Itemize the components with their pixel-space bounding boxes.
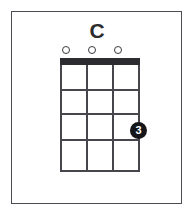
string-1 bbox=[60, 65, 62, 172]
nut-bar bbox=[60, 58, 140, 65]
string-2 bbox=[86, 65, 88, 172]
fret-line-4 bbox=[60, 170, 140, 172]
open-string-marker-2[interactable] bbox=[88, 46, 96, 54]
fret-line-1 bbox=[60, 89, 140, 91]
fretboard-grid bbox=[60, 65, 140, 172]
chord-name-title: C bbox=[0, 20, 194, 42]
string-4 bbox=[138, 65, 140, 172]
chord-diagram-card: C 3 bbox=[0, 0, 194, 215]
fret-line-2 bbox=[60, 113, 140, 115]
finger-dot-3[interactable]: 3 bbox=[130, 122, 147, 139]
fret-line-3 bbox=[60, 139, 140, 141]
open-string-marker-3[interactable] bbox=[114, 46, 122, 54]
string-3 bbox=[112, 65, 114, 172]
open-string-marker-1[interactable] bbox=[62, 46, 70, 54]
